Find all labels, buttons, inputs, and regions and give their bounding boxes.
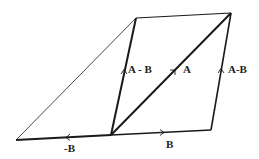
label-b: B — [166, 138, 174, 150]
label-a-minus-b-right: A-B — [228, 63, 248, 75]
label-a: A — [183, 63, 191, 75]
vector-diagram: A - B A A-B -B B — [0, 0, 259, 159]
vector-a-minus-b-left-line — [111, 18, 136, 135]
thin-diagonal-line — [16, 18, 136, 140]
top-edge-line — [136, 13, 231, 18]
vector-minus-b-line — [16, 135, 111, 140]
label-minus-b: -B — [64, 142, 76, 154]
label-a-minus-b-left: A - B — [128, 63, 153, 75]
